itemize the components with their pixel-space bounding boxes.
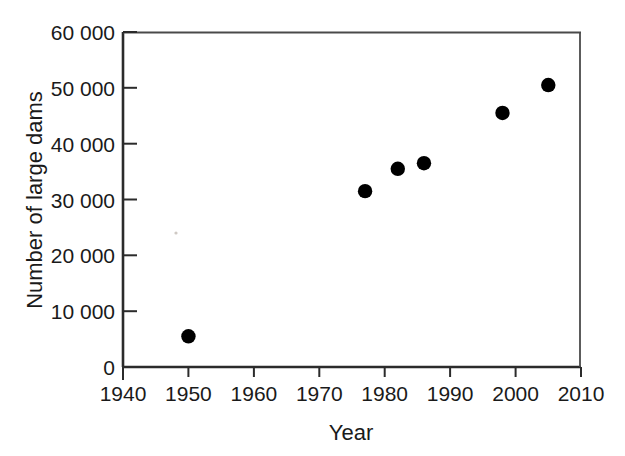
y-tick-label-50000: 50 000 [51,77,115,100]
data-point [541,78,555,92]
x-tick-label-2010: 2010 [558,382,605,405]
data-point [181,329,195,343]
data-point-group [181,78,555,344]
plot-frame [122,32,581,367]
data-point [417,156,431,170]
x-tick-label-1950: 1950 [165,382,212,405]
y-tick-label-0: 0 [103,356,115,379]
x-tick-label-1990: 1990 [427,382,474,405]
y-tick-label-60000: 60 000 [51,21,115,44]
y-axis-ticks [123,32,137,367]
scan-speck [174,231,177,234]
y-tick-label-20000: 20 000 [51,244,115,267]
y-tick-label-10000: 10 000 [51,300,115,323]
data-point [391,162,405,176]
x-axis-tick-labels: 1940 1950 1960 1970 1980 1990 2000 2010 [100,382,605,405]
y-axis-title: Number of large dams [22,91,47,309]
x-axis-title: Year [329,420,373,445]
data-point [495,106,509,120]
y-tick-label-40000: 40 000 [51,133,115,156]
scatter-plot-svg: 0 10 000 20 000 30 000 40 000 50 000 60 … [0,0,625,456]
data-point [358,184,372,198]
x-tick-label-1960: 1960 [231,382,278,405]
x-tick-label-2000: 2000 [492,382,539,405]
y-tick-label-30000: 30 000 [51,189,115,212]
y-axis-tick-labels: 0 10 000 20 000 30 000 40 000 50 000 60 … [51,21,115,379]
x-tick-label-1970: 1970 [296,382,343,405]
x-axis-ticks [123,367,581,380]
x-tick-label-1980: 1980 [361,382,408,405]
chart-figure: 0 10 000 20 000 30 000 40 000 50 000 60 … [0,0,625,456]
x-tick-label-1940: 1940 [100,382,147,405]
